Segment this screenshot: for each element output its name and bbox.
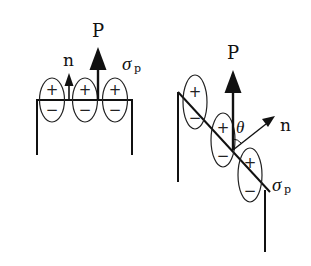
polarization-surface-charge-diagram: + − + − + − n P σ p <box>0 0 311 266</box>
right-panel-tilted: + − + − + − P θ n σ p <box>178 42 291 252</box>
svg-text:p: p <box>284 183 291 196</box>
svg-text:σ: σ <box>272 174 282 195</box>
minus-sign: − <box>109 101 122 119</box>
plus-sign: + <box>79 81 92 99</box>
svg-text:σ: σ <box>122 53 132 74</box>
minus-sign: − <box>244 182 257 200</box>
polarization-vector-arrow <box>225 70 242 150</box>
plus-sign: + <box>189 83 202 101</box>
plus-sign: + <box>244 154 257 172</box>
left-panel-perpendicular: + − + − + − n P σ p <box>36 20 141 155</box>
surface-charge-label: σ p <box>122 53 141 75</box>
minus-sign: − <box>217 147 230 165</box>
minus-sign: − <box>79 101 92 119</box>
angle-theta-label: θ <box>236 118 244 137</box>
dipole: + − <box>238 148 262 202</box>
minus-sign: − <box>189 109 202 127</box>
plus-sign: + <box>217 119 230 137</box>
polarization-label: P <box>227 42 239 63</box>
polarization-label: P <box>92 20 104 41</box>
plus-sign: + <box>109 81 122 99</box>
normal-label: n <box>280 115 291 135</box>
normal-label: n <box>63 50 74 70</box>
plus-sign: + <box>46 81 59 99</box>
minus-sign: − <box>46 101 59 119</box>
polarization-vector-arrow <box>90 47 107 100</box>
svg-text:p: p <box>134 62 141 75</box>
surface-charge-label: σ p <box>272 174 291 196</box>
